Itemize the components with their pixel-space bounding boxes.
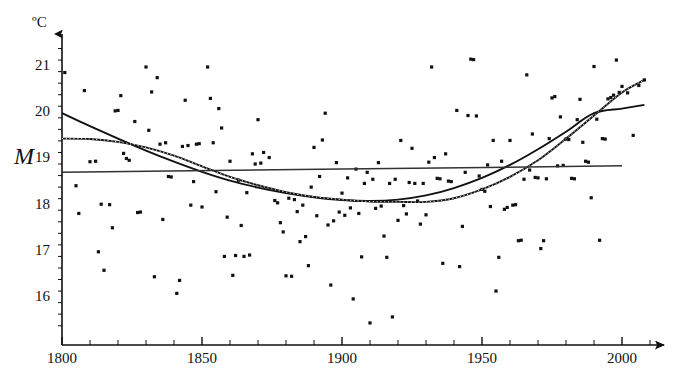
data-point bbox=[181, 145, 184, 148]
data-point bbox=[357, 212, 360, 215]
data-point bbox=[240, 224, 243, 227]
data-point bbox=[259, 162, 262, 165]
data-point bbox=[438, 177, 441, 180]
data-point bbox=[74, 184, 77, 187]
data-point bbox=[475, 114, 478, 117]
x-tick-label: 1950 bbox=[452, 350, 512, 367]
data-point bbox=[352, 297, 355, 300]
data-point bbox=[394, 178, 397, 181]
data-point bbox=[206, 65, 209, 68]
data-point bbox=[114, 109, 117, 112]
data-point bbox=[256, 118, 259, 121]
data-point bbox=[522, 178, 525, 181]
data-point bbox=[422, 182, 425, 185]
scatter-points bbox=[63, 58, 646, 325]
data-point bbox=[321, 138, 324, 141]
x-tick-label: 1900 bbox=[312, 350, 372, 367]
y-tick-label: 21 bbox=[22, 57, 50, 74]
data-point bbox=[212, 141, 215, 144]
data-point bbox=[231, 274, 234, 277]
data-point bbox=[214, 190, 217, 193]
data-point bbox=[525, 73, 528, 76]
data-point bbox=[284, 274, 287, 277]
data-point bbox=[326, 223, 329, 226]
data-point bbox=[528, 168, 531, 171]
data-point bbox=[198, 142, 201, 145]
data-point bbox=[83, 89, 86, 92]
data-point bbox=[450, 180, 453, 183]
data-point bbox=[329, 283, 332, 286]
x-tick-label: 2000 bbox=[592, 350, 652, 367]
data-point bbox=[279, 221, 282, 224]
data-point bbox=[433, 156, 436, 159]
data-point bbox=[189, 204, 192, 207]
data-point bbox=[466, 114, 469, 117]
data-point bbox=[144, 65, 147, 68]
data-point bbox=[262, 151, 265, 154]
data-point bbox=[119, 94, 122, 97]
data-point bbox=[136, 211, 139, 214]
data-point bbox=[632, 134, 635, 137]
data-point bbox=[500, 160, 503, 163]
data-point bbox=[184, 99, 187, 102]
data-point bbox=[251, 152, 254, 155]
unit-label: ºC bbox=[32, 14, 47, 31]
data-point bbox=[548, 137, 551, 140]
y-tick-label: 17 bbox=[22, 242, 50, 259]
dotted-polynomial-trend-curve bbox=[62, 80, 644, 202]
data-point bbox=[436, 177, 439, 180]
data-point bbox=[178, 279, 181, 282]
data-point bbox=[315, 214, 318, 217]
data-point bbox=[405, 212, 408, 215]
x-tick-label: 1800 bbox=[32, 350, 92, 367]
data-point bbox=[128, 159, 131, 162]
data-point bbox=[380, 204, 383, 207]
data-point bbox=[489, 205, 492, 208]
data-point bbox=[360, 255, 363, 258]
data-point bbox=[590, 196, 593, 199]
data-point bbox=[335, 161, 338, 164]
data-point bbox=[147, 129, 150, 132]
data-point bbox=[382, 234, 385, 237]
data-point bbox=[175, 292, 178, 295]
data-point bbox=[209, 97, 212, 100]
data-point bbox=[494, 289, 497, 292]
data-point bbox=[195, 143, 198, 146]
data-point bbox=[116, 109, 119, 112]
data-point bbox=[273, 199, 276, 202]
data-point bbox=[396, 219, 399, 222]
mean-reference-line bbox=[62, 166, 622, 172]
x-tick-label: 1850 bbox=[172, 350, 232, 367]
data-point bbox=[517, 239, 520, 242]
data-point bbox=[122, 152, 125, 155]
data-point bbox=[377, 161, 380, 164]
data-point bbox=[161, 218, 164, 221]
data-point bbox=[234, 254, 237, 257]
data-point bbox=[111, 226, 114, 229]
data-point bbox=[427, 161, 430, 164]
data-point bbox=[287, 197, 290, 200]
parabolic-trend-curve bbox=[62, 105, 644, 201]
data-point bbox=[520, 239, 523, 242]
data-point bbox=[158, 143, 161, 146]
data-point bbox=[536, 176, 539, 179]
data-series-group bbox=[62, 58, 646, 325]
data-point bbox=[539, 247, 542, 250]
data-point bbox=[604, 137, 607, 140]
data-point bbox=[301, 204, 304, 207]
data-point bbox=[298, 240, 301, 243]
data-point bbox=[307, 264, 310, 267]
data-point bbox=[492, 139, 495, 142]
data-point bbox=[343, 214, 346, 217]
data-point bbox=[242, 255, 245, 258]
data-point bbox=[458, 265, 461, 268]
data-point bbox=[77, 212, 80, 215]
data-point bbox=[511, 204, 514, 207]
data-point bbox=[248, 253, 251, 256]
data-point bbox=[606, 97, 609, 100]
data-point bbox=[290, 275, 293, 278]
data-point bbox=[497, 256, 500, 259]
data-point bbox=[486, 163, 489, 166]
data-point bbox=[581, 141, 584, 144]
data-point bbox=[338, 210, 341, 213]
